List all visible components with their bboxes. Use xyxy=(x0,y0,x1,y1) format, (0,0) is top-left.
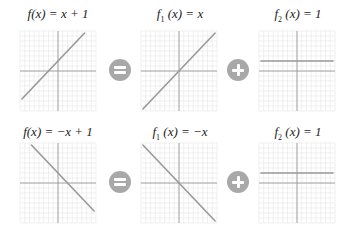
func-rest: (x) = 1 xyxy=(285,124,321,139)
term1-title-row2: f1 (x) = −x xyxy=(125,124,235,142)
plus-bar-v xyxy=(237,64,240,76)
func-subscript: 2 xyxy=(278,133,282,142)
equals-icon xyxy=(109,171,131,193)
plus-icon xyxy=(227,59,249,81)
plus-icon xyxy=(227,171,249,193)
plot-term2-row1 xyxy=(259,31,335,111)
equation-title-row1: f(x) = x + 1 xyxy=(3,6,113,22)
plot-equation-row1 xyxy=(20,31,96,111)
func-subscript: 1 xyxy=(156,133,160,142)
func-rest: (x) = −x xyxy=(163,124,207,139)
equals-bar-top xyxy=(114,178,126,181)
plot-equation-row2 xyxy=(20,143,96,223)
term2-title-row2: f2 (x) = 1 xyxy=(243,124,353,142)
equals-bar-bottom xyxy=(114,71,126,74)
equals-icon xyxy=(109,59,131,81)
equals-bar-top xyxy=(114,66,126,69)
plot-term2-row2 xyxy=(259,143,335,223)
plus-bar-v xyxy=(237,176,240,188)
term1-title-row1: f1 (x) = x xyxy=(125,6,235,24)
term2-title-row1: f2 (x) = 1 xyxy=(243,6,353,24)
plot-term1-row2 xyxy=(141,143,217,223)
func-rest: (x) = 1 xyxy=(285,6,321,21)
func-subscript: 1 xyxy=(160,15,164,24)
plot-term1-row1 xyxy=(141,31,217,111)
equals-bar-bottom xyxy=(114,183,126,186)
func-subscript: 2 xyxy=(278,15,282,24)
equation-title-row2: f(x) = −x + 1 xyxy=(3,124,113,140)
func-rest: (x) = x xyxy=(168,6,203,21)
